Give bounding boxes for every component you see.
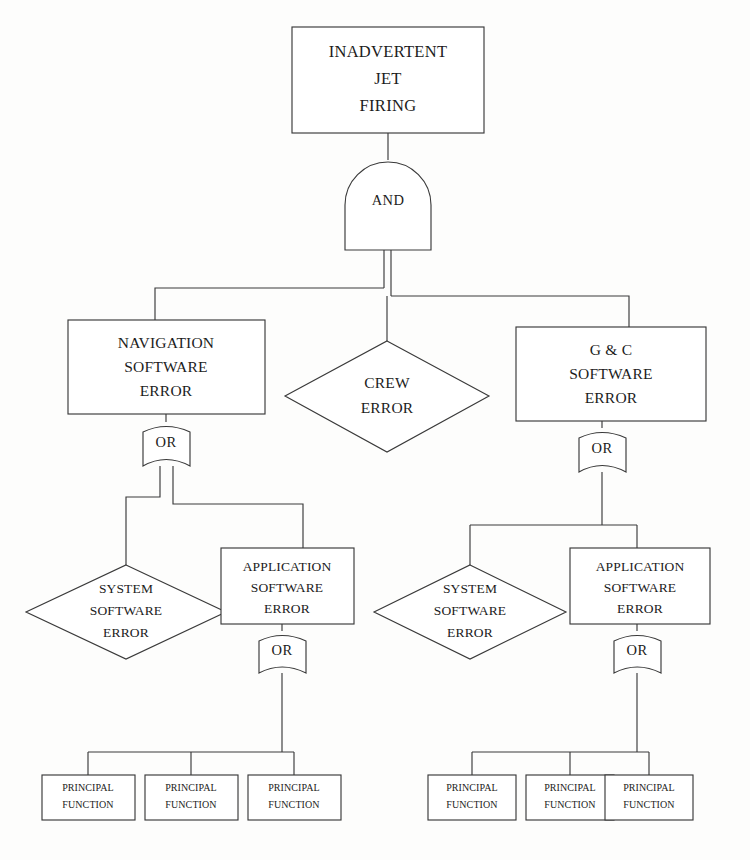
gc-line2: SOFTWARE xyxy=(569,365,652,382)
leaf-line1: PRINCIPAL xyxy=(62,782,114,793)
connector-bus-right xyxy=(391,296,629,327)
connector-or-nav-leg-left xyxy=(126,466,160,565)
leaf-line2: FUNCTION xyxy=(623,799,674,810)
application-right-line2: SOFTWARE xyxy=(604,580,676,595)
application-left-line1: APPLICATION xyxy=(243,559,332,574)
and-gate[interactable]: AND xyxy=(345,162,431,250)
or-gate-application-right[interactable]: OR xyxy=(614,636,661,674)
node-top-event[interactable]: INADVERTENT JET FIRING xyxy=(292,27,484,133)
node-navigation-software-error[interactable]: NAVIGATION SOFTWARE ERROR xyxy=(68,320,265,414)
leaf-line1: PRINCIPAL xyxy=(268,782,320,793)
leaf-line1: PRINCIPAL xyxy=(544,782,596,793)
node-crew-error[interactable]: CREW ERROR xyxy=(285,341,489,452)
system-right-line1: SYSTEM xyxy=(443,581,497,596)
and-gate-label: AND xyxy=(372,192,405,208)
node-application-software-error-left[interactable]: APPLICATION SOFTWARE ERROR xyxy=(221,548,354,624)
top-event-line2: JET xyxy=(374,69,401,88)
leaf-node-left-1[interactable]: PRINCIPAL FUNCTION xyxy=(42,775,135,820)
or-gate-application-left-label: OR xyxy=(272,642,293,658)
navigation-line3: ERROR xyxy=(140,382,193,399)
crew-error-line1: CREW xyxy=(364,374,410,391)
or-gate-navigation[interactable]: OR xyxy=(143,427,190,467)
leaf-line2: FUNCTION xyxy=(165,799,216,810)
navigation-line1: NAVIGATION xyxy=(118,334,214,351)
connector-or-nav-leg-right xyxy=(173,466,303,548)
system-right-line3: ERROR xyxy=(447,625,493,640)
top-event-line3: FIRING xyxy=(360,96,417,115)
or-gate-navigation-label: OR xyxy=(156,434,177,450)
leaf-node-right-3[interactable]: PRINCIPAL FUNCTION xyxy=(605,775,693,820)
application-right-line1: APPLICATION xyxy=(596,559,685,574)
or-gate-gc[interactable]: OR xyxy=(579,433,626,473)
gc-line1: G & C xyxy=(590,341,632,358)
application-left-line3: ERROR xyxy=(264,601,310,616)
node-gc-software-error[interactable]: G & C SOFTWARE ERROR xyxy=(516,327,706,421)
node-application-software-error-right[interactable]: APPLICATION SOFTWARE ERROR xyxy=(570,548,710,624)
leaf-line1: PRINCIPAL xyxy=(165,782,217,793)
navigation-line2: SOFTWARE xyxy=(124,358,207,375)
system-left-line2: SOFTWARE xyxy=(90,603,162,618)
fault-tree-canvas: INADVERTENT JET FIRING AND NAVIGATION SO… xyxy=(0,0,750,860)
leaf-line1: PRINCIPAL xyxy=(623,782,675,793)
application-left-line2: SOFTWARE xyxy=(251,580,323,595)
application-right-line3: ERROR xyxy=(617,601,663,616)
gc-line3: ERROR xyxy=(585,389,638,406)
or-gate-application-right-label: OR xyxy=(627,642,648,658)
system-left-line3: ERROR xyxy=(103,625,149,640)
leaf-group-left: PRINCIPAL FUNCTION PRINCIPAL FUNCTION PR… xyxy=(42,775,341,820)
or-gate-application-left[interactable]: OR xyxy=(259,636,306,674)
leaf-node-left-3[interactable]: PRINCIPAL FUNCTION xyxy=(248,775,341,820)
node-system-software-error-left[interactable]: SYSTEM SOFTWARE ERROR xyxy=(26,565,226,659)
leaf-line2: FUNCTION xyxy=(544,799,595,810)
leaf-node-left-2[interactable]: PRINCIPAL FUNCTION xyxy=(145,775,238,820)
leaf-line2: FUNCTION xyxy=(62,799,113,810)
node-system-software-error-right[interactable]: SYSTEM SOFTWARE ERROR xyxy=(374,565,566,659)
leaf-line1: PRINCIPAL xyxy=(446,782,498,793)
leaf-node-right-2[interactable]: PRINCIPAL FUNCTION xyxy=(526,775,614,820)
or-gate-gc-label: OR xyxy=(592,440,613,456)
crew-error-diamond[interactable] xyxy=(285,341,489,452)
system-right-line2: SOFTWARE xyxy=(434,603,506,618)
top-event-line1: INADVERTENT xyxy=(329,42,448,61)
crew-error-line2: ERROR xyxy=(361,399,414,416)
system-left-line1: SYSTEM xyxy=(99,581,153,596)
connector-bus-left xyxy=(155,288,384,320)
leaf-node-right-1[interactable]: PRINCIPAL FUNCTION xyxy=(428,775,516,820)
leaf-line2: FUNCTION xyxy=(446,799,497,810)
leaf-line2: FUNCTION xyxy=(268,799,319,810)
fault-tree-diagram: INADVERTENT JET FIRING AND NAVIGATION SO… xyxy=(0,0,750,860)
leaf-group-right: PRINCIPAL FUNCTION PRINCIPAL FUNCTION PR… xyxy=(428,775,693,820)
